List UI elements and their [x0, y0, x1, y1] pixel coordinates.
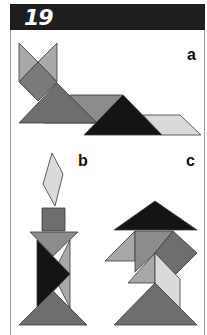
candle-wick-square	[42, 208, 65, 231]
c-base-triangle	[114, 283, 197, 325]
candle-flame-parallelogram	[43, 153, 63, 206]
candle-base-triangle	[19, 291, 87, 325]
figure-c	[105, 201, 197, 325]
figure-b-candle	[19, 153, 87, 325]
tangram-figures	[0, 0, 207, 335]
c-black-roof-triangle	[114, 201, 197, 230]
figure-a-cat	[19, 43, 201, 135]
c-left-light-triangle	[105, 231, 135, 261]
